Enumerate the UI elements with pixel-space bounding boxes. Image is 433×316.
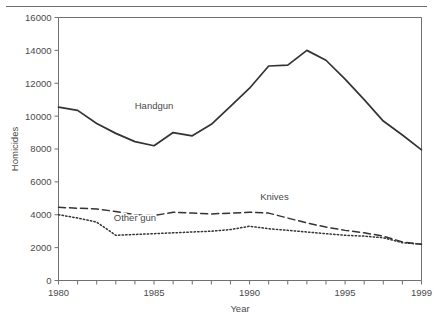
y-axis-tick-label: 10000	[25, 111, 51, 122]
x-axis-tick-label: 1999	[411, 287, 432, 298]
series-line-handgun	[59, 50, 422, 149]
y-axis-tick-label: 14000	[25, 45, 51, 56]
line-chart-plot: 0200040006000800010000120001400016000198…	[0, 0, 433, 316]
y-axis-tick-label: 12000	[25, 78, 51, 89]
axes-group: 0200040006000800010000120001400016000198…	[9, 12, 432, 314]
y-axis-title-label: Homicides	[9, 127, 20, 172]
x-axis-tick-label: 1990	[239, 287, 260, 298]
y-axis-tick-label: 4000	[30, 209, 51, 220]
annotation-labels-group: HandgunHandgunKnivesKnivesOther gunOther…	[114, 100, 289, 223]
y-axis-tick-label: 2000	[30, 242, 51, 253]
y-axis-tick-label: 8000	[30, 143, 51, 154]
x-axis-title: Year	[230, 303, 249, 314]
series-label-handgun: Handgun	[135, 100, 174, 111]
x-axis-tick-label: 1995	[335, 287, 356, 298]
y-axis-tick-label: 0	[46, 275, 51, 286]
y-axis-tick-label: 16000	[25, 12, 51, 23]
x-axis-tick-label: 1980	[48, 287, 69, 298]
y-axis-tick-label: 6000	[30, 176, 51, 187]
chart-container: 0200040006000800010000120001400016000198…	[0, 0, 433, 316]
x-axis-tick-label: 1985	[143, 287, 164, 298]
series-label-knives: Knives	[260, 191, 289, 202]
plot-frame	[59, 18, 422, 281]
series-label-other-gun: Other gun	[114, 212, 156, 223]
